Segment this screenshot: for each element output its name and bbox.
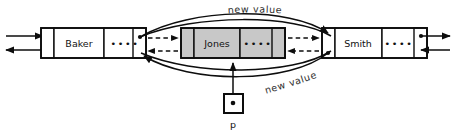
new-value-bottom-text: new value: [264, 69, 319, 96]
node-baker[interactable]: Baker ••••: [41, 28, 146, 58]
smith-pointer-dots: ••••: [385, 38, 414, 49]
dashed-links-jones-smith: [288, 38, 319, 51]
pointer-variable-p[interactable]: p: [224, 63, 243, 130]
baker-label: Baker: [65, 38, 92, 49]
jones-pointer-dots: ••••: [244, 38, 273, 49]
node-jones[interactable]: Jones ••••: [181, 28, 285, 58]
node-smith[interactable]: Smith ••••: [322, 28, 427, 58]
linked-list-diagram: Baker •••• Jones •••• Smith ••••: [0, 0, 456, 133]
dashed-links-baker-jones: [148, 38, 178, 51]
smith-label: Smith: [344, 38, 372, 49]
jones-next-cell: [272, 28, 285, 58]
new-value-top-label: new value: [227, 3, 282, 15]
smith-next-cell: [414, 28, 427, 58]
jones-prev-cell: [181, 28, 194, 58]
diagram-canvas: Baker •••• Jones •••• Smith ••••: [0, 0, 456, 133]
baker-prev-cell: [41, 28, 54, 58]
smith-prev-pointer-dot: [326, 51, 330, 55]
jones-label: Jones: [203, 38, 229, 49]
left-edge-arrows: [6, 36, 45, 52]
p-pointer-dot: [231, 101, 236, 106]
new-value-bottom-label: new value: [264, 69, 319, 96]
new-value-top-text: new value: [227, 3, 282, 15]
p-label: p: [230, 119, 236, 130]
baker-next-pointer-dot: [138, 35, 142, 39]
baker-pointer-dots: ••••: [111, 38, 140, 49]
